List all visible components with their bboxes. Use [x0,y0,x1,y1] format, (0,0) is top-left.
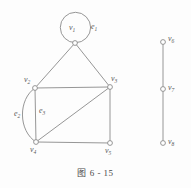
vertex-label-v4: v4 [30,146,36,154]
vertex-label-v3: v3 [111,75,117,83]
edge-v4-v5 [36,142,110,143]
vertex-label-v2: v2 [24,76,30,84]
edge-label-e3: e3 [39,107,45,115]
edge-group [22,12,163,143]
vertex-v5 [108,141,113,146]
edge-e3-v2-v4 [35,88,36,142]
figure-container: v1 v2 v3 v4 v5 v6 v7 v8 e1 e2 e3 图 6 - 1… [0,0,191,188]
vertex-v7 [161,87,166,92]
edge-v1-v3 [75,43,110,87]
edge-label-e1: e1 [91,23,97,31]
figure-caption: 图 6 - 15 [0,166,191,179]
edge-v1-v2 [35,43,75,88]
vertex-v2 [33,86,38,91]
vertex-v1 [73,41,78,46]
vertex-v4 [34,140,39,145]
vertex-v6 [161,40,166,45]
vertex-label-v6: v6 [168,35,174,43]
vertex-label-v8: v8 [168,138,174,146]
edge-e2-v2-v4-curve [22,88,36,142]
edge-label-e2: e2 [14,110,20,118]
vertex-label-v5: v5 [105,147,111,155]
vertex-v8 [161,141,166,146]
vertex-label-v1: v1 [69,24,75,32]
edge-e1-loop [60,12,90,42]
edge-v2-v3 [35,87,110,88]
vertex-label-v7: v7 [168,84,174,92]
edge-v3-v4 [36,87,110,142]
vertex-v3 [108,85,113,90]
